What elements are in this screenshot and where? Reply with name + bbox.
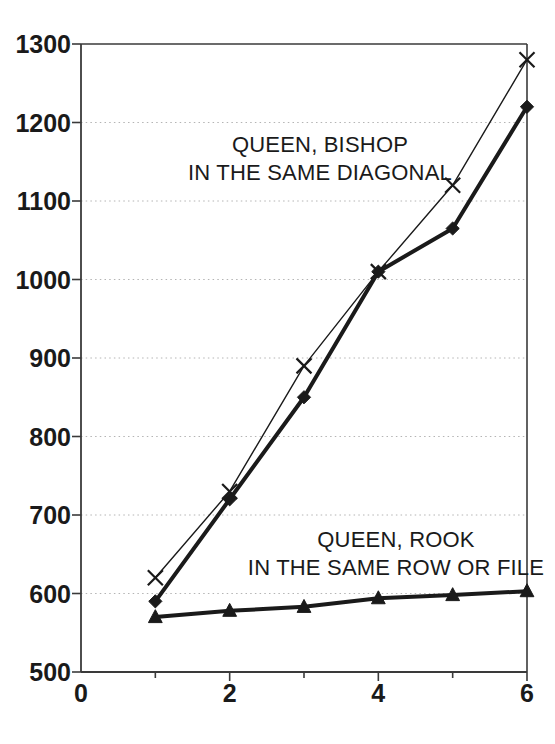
- y-tick-label-1000: 1000: [15, 266, 71, 294]
- annotation-queen-rook-line1: QUEEN, ROOK: [317, 527, 475, 552]
- y-tick-label-500: 500: [29, 658, 71, 686]
- x-tick-label-0: 0: [74, 679, 88, 707]
- x-tick-label-6: 6: [520, 679, 534, 707]
- annotation-queen-rook-line2: IN THE SAME ROW OR FILE: [248, 555, 544, 580]
- chart-background: [0, 0, 555, 744]
- y-tick-label-800: 800: [29, 423, 71, 451]
- annotation-queen-bishop-line2: IN THE SAME DIAGONAL: [188, 160, 452, 185]
- y-tick-label-1300: 1300: [15, 30, 71, 58]
- chart-container: 1300 1200 1100 1000 900 800 700 600 500 …: [0, 0, 555, 744]
- y-tick-label-700: 700: [29, 501, 71, 529]
- line-chart: 1300 1200 1100 1000 900 800 700 600 500 …: [0, 0, 555, 744]
- x-tick-label-2: 2: [223, 679, 237, 707]
- y-tick-label-900: 900: [29, 344, 71, 372]
- y-tick-label-1100: 1100: [17, 187, 71, 215]
- y-tick-label-1200: 1200: [15, 109, 71, 137]
- x-tick-label-4: 4: [371, 679, 385, 707]
- y-tick-label-600: 600: [29, 580, 71, 608]
- annotation-queen-bishop-line1: QUEEN, BISHOP: [232, 132, 408, 157]
